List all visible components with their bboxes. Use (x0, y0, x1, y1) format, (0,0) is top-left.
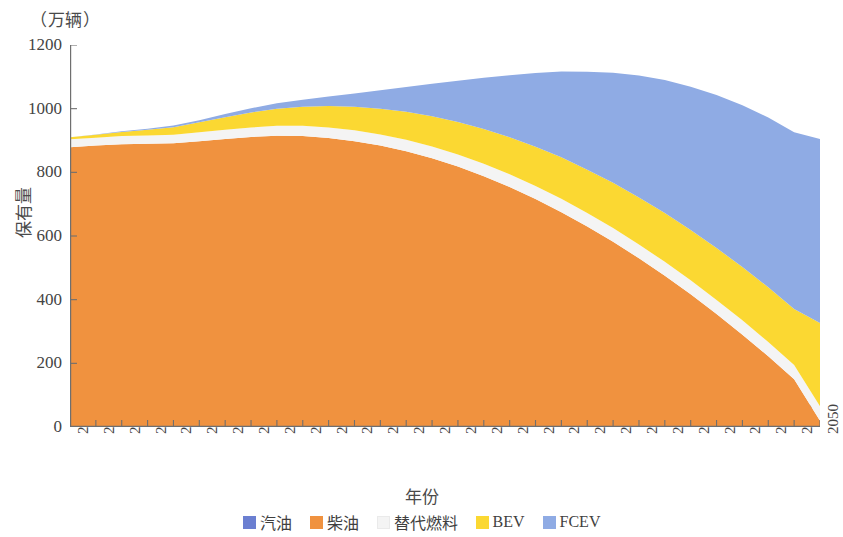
legend-label: 汽油 (260, 510, 292, 534)
x-axis-title: 年份 (0, 483, 843, 508)
chart-root: （万辆） 保有量 020040060080010001200 202120222… (0, 0, 843, 537)
legend-swatch-icon (476, 516, 489, 529)
legend-item-汽油[interactable]: 汽油 (243, 510, 292, 534)
y-axis-tick-label: 200 (10, 354, 62, 371)
legend-item-BEV[interactable]: BEV (476, 513, 525, 531)
plot-area (70, 45, 820, 427)
legend-label: 替代燃料 (394, 510, 458, 534)
legend-label: BEV (493, 513, 525, 531)
legend-swatch-icon (543, 516, 556, 529)
y-axis-title: 保有量 (10, 168, 35, 258)
y-axis-tick-label: 1000 (10, 100, 62, 117)
chart-legend: 汽油柴油替代燃料BEVFCEV (0, 510, 843, 534)
y-axis-tick-label: 600 (10, 227, 62, 244)
legend-swatch-icon (310, 516, 323, 529)
legend-swatch-icon (377, 516, 390, 529)
y-axis-tick-label: 400 (10, 291, 62, 308)
legend-item-柴油[interactable]: 柴油 (310, 510, 359, 534)
x-axis-tick-label: 2050 (826, 404, 841, 434)
legend-item-FCEV[interactable]: FCEV (543, 513, 601, 531)
legend-label: FCEV (560, 513, 601, 531)
y-axis-tick-label: 800 (10, 163, 62, 180)
legend-swatch-icon (243, 516, 256, 529)
legend-item-替代燃料[interactable]: 替代燃料 (377, 510, 458, 534)
y-axis-unit-label: （万辆） (30, 6, 100, 31)
stacked-area-plot (70, 45, 820, 427)
legend-label: 柴油 (327, 510, 359, 534)
y-axis-tick-label: 1200 (10, 36, 62, 53)
y-axis-tick-label: 0 (10, 418, 62, 435)
